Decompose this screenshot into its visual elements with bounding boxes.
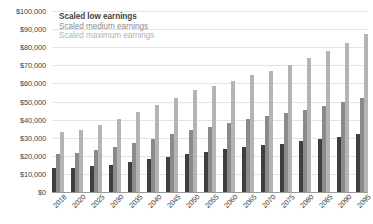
- y-axis-tick-label: $100,000: [16, 7, 46, 16]
- legend-item-medium: Scaled medium earnings: [59, 22, 154, 32]
- bar-maximum: [231, 81, 235, 192]
- bar-maximum: [136, 112, 140, 192]
- y-axis-tick-label: $0: [38, 188, 46, 197]
- bar-maximum: [60, 132, 64, 192]
- y-axis-tick-label: $90,000: [20, 25, 46, 34]
- bar-group: [299, 11, 311, 192]
- y-axis-tick-label: $30,000: [20, 133, 46, 142]
- bar-maximum: [288, 65, 292, 192]
- x-axis-tick-label: 2055: [203, 192, 220, 209]
- bar-group: [280, 11, 292, 192]
- y-axis-tick-label: $40,000: [20, 115, 46, 124]
- bar-group: [223, 11, 235, 192]
- legend-item-low: Scaled low earnings: [59, 12, 154, 22]
- y-axis: $0$10,000$20,000$30,000$40,000$50,000$60…: [0, 0, 50, 203]
- x-axis-tick-label: 2040: [146, 192, 163, 209]
- bar-group: [261, 11, 273, 192]
- bar-maximum: [326, 51, 330, 192]
- x-axis: 2018202020252030203520402045205020552060…: [52, 193, 368, 224]
- bar-group: [318, 11, 330, 192]
- x-axis-tick-label: 2070: [260, 192, 277, 209]
- bar-chart: $0$10,000$20,000$30,000$40,000$50,000$60…: [0, 0, 373, 224]
- x-axis-tick-label: 2075: [279, 192, 296, 209]
- bar-maximum: [212, 86, 216, 192]
- x-axis-tick-label: 2095: [355, 192, 372, 209]
- legend-item-maximum: Scaled maximum earnings: [59, 31, 154, 41]
- x-axis-tick-label: 2025: [89, 192, 106, 209]
- bar-maximum: [364, 34, 368, 192]
- bar-maximum: [269, 71, 273, 192]
- x-axis-tick-label: 2020: [70, 192, 87, 209]
- x-axis-tick-label: 2065: [241, 192, 258, 209]
- bar-maximum: [250, 75, 254, 192]
- y-axis-tick-label: $20,000: [20, 151, 46, 160]
- bar-maximum: [98, 125, 102, 192]
- bar-maximum: [79, 130, 83, 192]
- bar-maximum: [174, 98, 178, 192]
- bar-maximum: [117, 119, 121, 192]
- x-axis-tick-label: 2080: [298, 192, 315, 209]
- x-axis-tick-label: 2030: [108, 192, 125, 209]
- y-axis-tick-label: $70,000: [20, 61, 46, 70]
- x-axis-tick-label: 2035: [127, 192, 144, 209]
- x-axis-tick-label: 2060: [222, 192, 239, 209]
- x-axis-tick-label: 2090: [336, 192, 353, 209]
- bar-group: [356, 11, 368, 192]
- bar-maximum: [345, 43, 349, 192]
- x-axis-tick-label: 2045: [165, 192, 182, 209]
- x-axis-tick-label: 2050: [184, 192, 201, 209]
- bar-group: [166, 11, 178, 192]
- bar-group: [204, 11, 216, 192]
- y-axis-tick-label: $10,000: [20, 169, 46, 178]
- y-axis-tick-label: $50,000: [20, 97, 46, 106]
- bar-maximum: [307, 58, 311, 192]
- x-axis-tick-label: 2085: [317, 192, 334, 209]
- bar-maximum: [193, 90, 197, 192]
- y-axis-tick-label: $60,000: [20, 79, 46, 88]
- bar-group: [185, 11, 197, 192]
- bar-group: [242, 11, 254, 192]
- x-axis-tick-label: 2018: [51, 192, 68, 209]
- y-axis-tick-label: $80,000: [20, 43, 46, 52]
- chart-legend: Scaled low earnings Scaled medium earnin…: [59, 12, 154, 41]
- bar-group: [337, 11, 349, 192]
- bar-maximum: [155, 105, 159, 192]
